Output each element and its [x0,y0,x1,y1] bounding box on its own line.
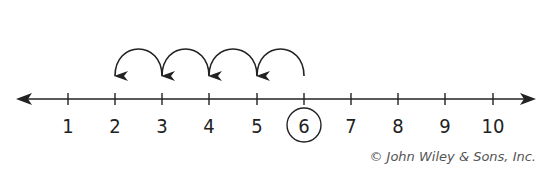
hop-arc-3-to-2 [115,49,162,76]
copyright-credit: © John Wiley & Sons, Inc. [369,149,536,164]
hop-arc-5-to-4 [209,49,257,76]
tick-label-circled: 6 [298,114,309,138]
hop-arc-6-to-5 [257,49,304,76]
tick-label: 7 [345,114,356,138]
tick-label: 9 [439,114,450,138]
tick-label: 4 [203,114,214,138]
tick-labels: 1 2 3 4 5 6 7 8 9 10 [62,114,504,138]
tick-label: 5 [251,114,262,138]
tick-label: 3 [156,114,167,138]
tick-label: 10 [482,114,505,138]
number-line-diagram: 1 2 3 4 5 6 7 8 9 10 [0,0,550,170]
hop-arcs [115,49,304,76]
tick-label: 8 [392,114,403,138]
hop-arc-4-to-3 [162,49,209,76]
tick-label: 2 [109,114,120,138]
tick-label: 1 [62,114,73,138]
